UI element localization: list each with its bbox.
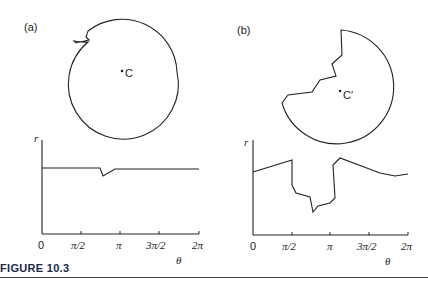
theta-axis-a: θ — [176, 254, 181, 266]
tick-b-1: π/2 — [282, 240, 296, 252]
tick-a-4: 2π — [192, 239, 203, 251]
figure-caption: FIGURE 10.3 — [0, 262, 69, 274]
tick-a-1: π/2 — [71, 239, 85, 251]
tick-a-2: π — [116, 239, 122, 251]
tick-b-3: 3π/2 — [357, 240, 377, 252]
tick-b-4: 2π — [401, 240, 412, 252]
center-b-label: C′ — [343, 89, 353, 101]
signature-b — [253, 158, 408, 212]
center-a-label: C — [125, 67, 133, 79]
r-axis-a: r — [34, 132, 38, 144]
tick-b-2: π — [327, 240, 333, 252]
boundary-b — [282, 30, 394, 144]
tick-b-0: 0 — [250, 240, 256, 252]
theta-axis-b: θ — [385, 255, 390, 267]
signature-a — [42, 168, 199, 176]
panel-b-label: (b) — [237, 24, 250, 36]
r-axis-b: r — [244, 136, 248, 148]
caption-rule — [0, 277, 428, 278]
tick-a-0: 0 — [38, 239, 44, 251]
panel-a-label: (a) — [24, 21, 37, 33]
tick-a-3: 3π/2 — [146, 239, 166, 251]
boundary-a — [68, 19, 178, 139]
